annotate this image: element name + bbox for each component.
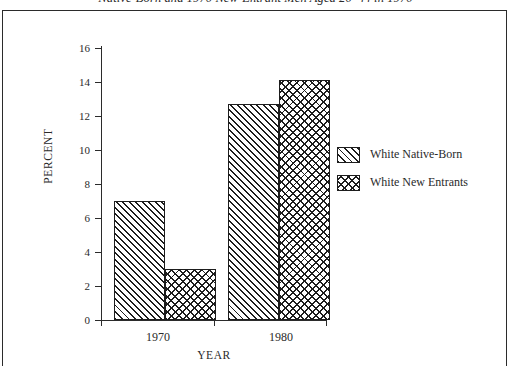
y-tick-label-16: 16 <box>62 43 90 54</box>
y-tick-8 <box>95 184 101 185</box>
y-tick-label-16-wrap: 16 <box>62 43 90 54</box>
y-tick-label-2: 2 <box>62 281 90 292</box>
y-tick-14 <box>95 82 101 83</box>
y-tick-label-0: 0 <box>62 315 90 326</box>
legend-swatch-diagonal-hatch-icon <box>337 147 360 163</box>
y-tick-10 <box>95 150 101 151</box>
y-tick-6 <box>95 218 101 219</box>
y-tick-label-6-wrap: 6 <box>62 213 90 224</box>
bar-1970-white-new-entrants <box>165 269 216 320</box>
y-tick-label-14-wrap: 14 <box>62 77 90 88</box>
x-tick-1980 <box>326 320 327 326</box>
y-tick-label-8-wrap: 8 <box>62 179 90 190</box>
y-tick-12 <box>95 116 101 117</box>
y-tick-label-12-wrap: 12 <box>62 111 90 122</box>
y-tick-label-10-wrap: 10 <box>62 145 90 156</box>
y-tick-label-14: 14 <box>62 77 90 88</box>
x-axis-title: YEAR <box>101 349 327 361</box>
y-tick-2 <box>95 286 101 287</box>
y-tick-4 <box>95 252 101 253</box>
y-tick-label-4: 4 <box>62 247 90 258</box>
y-tick-label-12: 12 <box>62 111 90 122</box>
bar-1980-white-native-born <box>228 104 279 320</box>
x-tick-label-1970: 1970 <box>118 330 198 345</box>
y-tick-16 <box>95 48 101 49</box>
chart-legend: White Native-Born White New Entrants <box>337 146 468 202</box>
y-axis-title: PERCENT <box>42 106 54 206</box>
x-tick-1970 <box>101 320 102 326</box>
legend-label-white-new-entrants: White New Entrants <box>370 175 468 190</box>
x-tick-label-1980: 1980 <box>241 330 321 345</box>
bar-1980-white-new-entrants <box>279 80 330 320</box>
legend-swatch-cross-hatch-icon <box>337 175 360 191</box>
y-tick-label-2-wrap: 2 <box>62 281 90 292</box>
chart-title: Native-Born and 1970 New-Entrant Men Age… <box>0 0 511 6</box>
y-tick-label-8: 8 <box>62 179 90 190</box>
bar-1970-white-native-born <box>114 201 165 320</box>
legend-item-white-new-entrants: White New Entrants <box>337 174 468 191</box>
legend-label-white-native-born: White Native-Born <box>370 147 462 162</box>
y-axis-line <box>101 46 102 321</box>
y-tick-label-6: 6 <box>62 213 90 224</box>
y-tick-label-4-wrap: 4 <box>62 247 90 258</box>
legend-item-white-native-born: White Native-Born <box>337 146 468 163</box>
y-tick-label-10: 10 <box>62 145 90 156</box>
y-tick-label-0-wrap: 0 <box>62 315 90 326</box>
x-tick-group-divider <box>214 320 215 326</box>
